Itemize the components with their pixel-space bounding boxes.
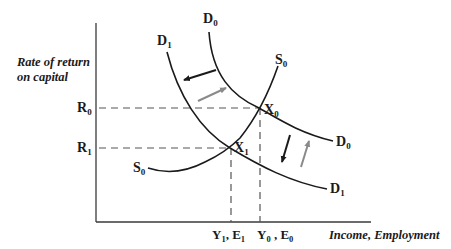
y1-e1-label: Y1, E1 bbox=[212, 227, 245, 244]
x1-label: X1 bbox=[234, 140, 249, 157]
d0-top-label: D0 bbox=[203, 11, 218, 28]
d1-right-label: D1 bbox=[330, 181, 345, 198]
shift-arrow-dark-lower bbox=[282, 135, 290, 162]
d1-top-label: D1 bbox=[157, 33, 172, 50]
economics-diagram: Rate of return on capital R0 R1 D0 D1 S0… bbox=[0, 0, 451, 249]
shift-arrow-dark-upper bbox=[184, 70, 216, 80]
demand-curve-d0 bbox=[209, 32, 333, 141]
supply-curve-s0 bbox=[148, 66, 278, 171]
y-axis-label-line1: Rate of return bbox=[16, 55, 90, 69]
d0-right-label: D0 bbox=[336, 134, 351, 151]
y-axis-label-line2: on capital bbox=[17, 70, 69, 84]
y0-e0-label: Y0 , E0 bbox=[257, 227, 293, 244]
r1-label: R1 bbox=[77, 140, 92, 157]
s0-bottom-label: S0 bbox=[133, 160, 146, 177]
x-axis-label: Income, Employment bbox=[328, 228, 440, 242]
s0-top-label: S0 bbox=[275, 52, 288, 69]
shift-arrow-gray-upper bbox=[198, 88, 226, 101]
r0-label: R0 bbox=[77, 100, 92, 117]
x0-label: X0 bbox=[264, 102, 279, 119]
shift-arrow-gray-lower bbox=[301, 141, 309, 167]
